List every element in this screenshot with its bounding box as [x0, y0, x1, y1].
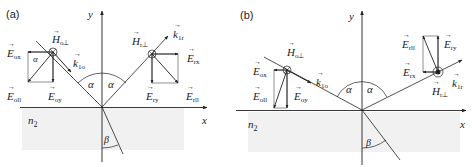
alpha-reflected-label: α	[108, 78, 114, 90]
vector-arrow-glyph: →	[254, 83, 261, 90]
e-ry-label: Ery	[443, 38, 457, 52]
h-reflected-label: Hr⊥	[431, 85, 448, 99]
k-incident-label: k1o	[73, 57, 85, 71]
e-rpar-arrow	[423, 36, 438, 72]
vector-arrow-glyph: →	[147, 83, 154, 90]
reflected-field-vectors	[423, 36, 443, 77]
vector-arrow-glyph: →	[174, 21, 181, 28]
vector-arrow-glyph: →	[288, 39, 295, 46]
vector-arrow-glyph: →	[49, 83, 56, 90]
e-ox-label: Eox	[252, 65, 267, 79]
e-rpar-arrow	[152, 54, 178, 83]
beta-label: β	[365, 137, 371, 148]
e-rpar-label: Erll	[401, 38, 415, 52]
medium-region	[22, 108, 184, 150]
vector-arrow-glyph: →	[187, 83, 194, 90]
h-incident-label: Ho⊥	[286, 46, 304, 60]
vector-arrow-glyph: →	[133, 28, 140, 35]
alpha-reflected-label: α	[367, 83, 373, 95]
k-incident-label: k1o	[316, 76, 328, 90]
e-opar-arrow	[28, 52, 53, 82]
e-ox-label: Eox	[6, 47, 21, 61]
vector-arrow-glyph: →	[433, 78, 440, 85]
e-opar-label: Eoll	[252, 90, 267, 104]
panel-label: (b)	[240, 9, 253, 21]
vector-arrow-glyph: →	[74, 50, 81, 57]
alpha-small-label: α	[33, 54, 38, 64]
panel-a: x y (a) α α β n2 α Ho⊥ → k1o → E	[6, 8, 207, 162]
x-axis-label: x	[459, 118, 465, 130]
reflected-field-vectors	[148, 50, 178, 83]
alpha-incident-label: α	[346, 83, 352, 95]
incident-ray	[36, 41, 102, 107]
vector-arrow-glyph: →	[295, 83, 302, 90]
panel-label: (a)	[6, 8, 19, 20]
e-rx-label: Erx	[186, 52, 200, 66]
medium-region	[248, 112, 460, 152]
vector-arrow-glyph: →	[403, 31, 410, 38]
y-axis-label: y	[348, 10, 354, 22]
vector-arrow-glyph: →	[53, 27, 60, 34]
e-rx-label: Erx	[402, 66, 416, 80]
e-opar-arrow	[274, 70, 287, 108]
e-opar-label: Eoll	[6, 90, 21, 104]
e-rpar-label: Erll	[185, 90, 199, 104]
k-reflected-label: k1r	[452, 77, 463, 91]
incident-field-vectors: α	[28, 48, 71, 82]
vector-arrow-glyph: →	[317, 69, 324, 76]
panel-b: x y (b) α α β n2 Ho⊥ → k1o → Eox → Eoll …	[236, 9, 466, 165]
vector-arrow-glyph: →	[188, 45, 195, 52]
vector-arrow-glyph: →	[8, 40, 15, 47]
e-ry-label: Ery	[145, 90, 159, 104]
k-reflected-label: k1r	[173, 28, 184, 42]
diagram-canvas: x y (a) α α β n2 α Ho⊥ → k1o → E	[0, 0, 472, 167]
vector-arrow-glyph: →	[8, 83, 15, 90]
h-incident-label: Ho⊥	[51, 33, 69, 47]
e-oy-label: Eoy	[47, 90, 62, 104]
vector-arrow-glyph: →	[404, 59, 411, 66]
alpha-incident-label: α	[88, 78, 94, 90]
x-axis-label: x	[201, 114, 207, 126]
beta-label: β	[103, 134, 109, 145]
reflected-ray	[362, 60, 462, 110]
k-incident-arrow	[53, 52, 71, 72]
k-incident-arrow	[287, 70, 311, 83]
vector-arrow-glyph: →	[254, 58, 261, 65]
vector-arrow-glyph: →	[445, 31, 452, 38]
y-axis-label: y	[87, 8, 93, 20]
h-reflected-label: Hr⊥	[131, 35, 148, 49]
e-oy-label: Eoy	[293, 90, 308, 104]
vector-arrow-glyph: →	[453, 70, 460, 77]
